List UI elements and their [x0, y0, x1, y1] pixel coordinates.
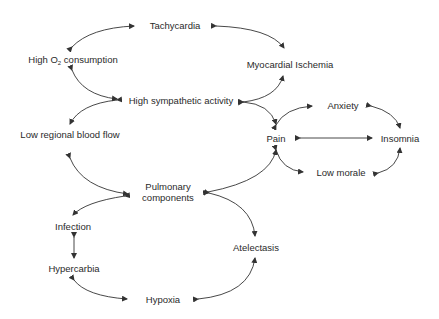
- edge-pulmonary-infection: [73, 196, 125, 215]
- node-high-o2-prefix: High O: [28, 54, 58, 65]
- edge-tachycardia-myocardial: [216, 26, 284, 48]
- node-anxiety: Anxiety: [327, 100, 358, 111]
- edge-pulmonary-atelectasis: [209, 193, 255, 236]
- edge-sympathetic-bloodflow: [70, 100, 117, 124]
- edge-pain-anxiety: [276, 106, 312, 125]
- edge-o2-sympathetic: [72, 70, 117, 99]
- node-insomnia: Insomnia: [381, 133, 420, 144]
- edge-sympathetic-myocardial: [243, 76, 283, 102]
- node-high-o2-consumption: High O2 consumption: [28, 54, 117, 69]
- node-pulmonary-line1: Pulmonary: [142, 181, 194, 192]
- node-pulmonary-line2: components: [142, 192, 194, 203]
- edge-hypercarbia-hypoxia: [74, 280, 127, 299]
- edge-pain-lowmorale: [276, 150, 303, 172]
- node-low-regional-blood-flow: Low regional blood flow: [20, 129, 119, 140]
- node-myocardial-ischemia: Myocardial Ischemia: [247, 59, 334, 70]
- edge-lowmorale-insomnia: [378, 148, 400, 173]
- node-hypercarbia: Hypercarbia: [48, 263, 99, 274]
- node-atelectasis: Atelectasis: [233, 242, 279, 253]
- node-high-o2-suffix: consumption: [61, 54, 118, 65]
- edge-pulmonary-pain: [208, 150, 276, 192]
- node-high-sympathetic-activity: High sympathetic activity: [129, 95, 234, 106]
- node-hypoxia: Hypoxia: [146, 294, 180, 305]
- edge-bloodflow-pulmonary: [70, 158, 128, 194]
- node-pulmonary-components: Pulmonary components: [142, 181, 194, 203]
- edge-hypoxia-atelectasis: [198, 258, 255, 299]
- edge-sympathetic-pain: [243, 102, 276, 124]
- node-tachycardia: Tachycardia: [150, 20, 201, 31]
- edge-o2-tachycardia: [72, 26, 134, 47]
- node-pain: Pain: [266, 133, 285, 144]
- node-infection: Infection: [55, 221, 91, 232]
- node-low-morale: Low morale: [316, 167, 365, 178]
- edge-anxiety-insomnia: [371, 106, 400, 128]
